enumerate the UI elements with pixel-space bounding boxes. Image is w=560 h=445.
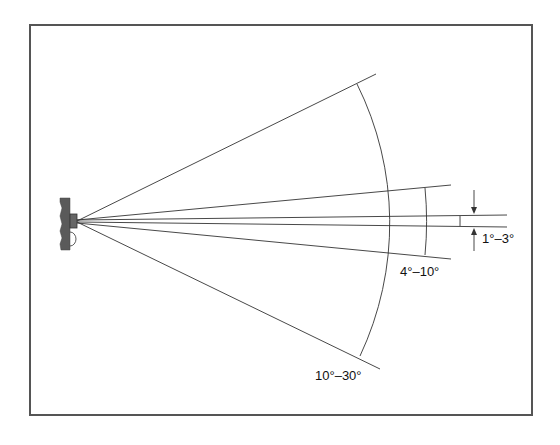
wide-beam-lower-edge bbox=[77, 222, 380, 369]
arrowhead-down-icon bbox=[471, 207, 477, 214]
wide-beam-upper-edge bbox=[77, 74, 376, 221]
medium-beam-upper-edge bbox=[77, 185, 451, 220]
medium-beam-lower-edge bbox=[77, 223, 451, 259]
medium-angle-arc bbox=[425, 188, 427, 255]
cable-loop bbox=[70, 232, 76, 246]
label-narrow-angle: 1°–3° bbox=[482, 231, 514, 246]
label-medium-angle: 4°–10° bbox=[400, 264, 439, 279]
narrow-beam-upper-edge bbox=[77, 215, 507, 220]
lamp-mount bbox=[70, 214, 77, 228]
narrow-beam-lower-edge bbox=[77, 222, 507, 227]
label-wide-angle: 10°–30° bbox=[315, 368, 362, 383]
wide-angle-arc bbox=[357, 84, 390, 356]
arrowhead-up-icon bbox=[471, 228, 477, 235]
wall bbox=[60, 198, 70, 250]
beam-diagram bbox=[0, 0, 560, 445]
